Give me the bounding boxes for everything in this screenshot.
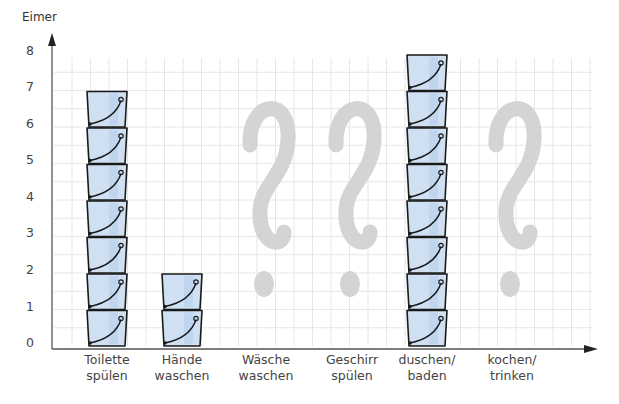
- bucket-icon: [87, 165, 127, 201]
- column-2: [250, 109, 288, 297]
- bucket-icon: [87, 238, 127, 274]
- bucket-icon: [407, 238, 447, 274]
- column-5: [496, 109, 534, 297]
- bucket-icon: [87, 92, 127, 128]
- bucket-icon: [407, 128, 447, 164]
- chart-canvas: [0, 0, 619, 404]
- x-label-duschen: duschen/ baden: [382, 352, 472, 384]
- bucket-icon: [162, 311, 202, 347]
- bucket-icon: [87, 274, 127, 310]
- bucket-icon: [162, 274, 202, 310]
- bucket-icon: [407, 165, 447, 201]
- bucket-icon: [407, 55, 447, 91]
- column-0: [87, 92, 127, 347]
- question-mark-icon: [250, 109, 288, 297]
- bucket-icon: [87, 128, 127, 164]
- bucket-icon: [87, 311, 127, 347]
- column-4: [407, 55, 447, 346]
- x-label-waesche: Wäsche waschen: [221, 352, 311, 384]
- bucket-icon: [407, 311, 447, 347]
- question-mark-icon: [496, 109, 534, 297]
- bucket-icon: [407, 92, 447, 128]
- bucket-icon: [407, 274, 447, 310]
- bucket-icon: [87, 201, 127, 237]
- column-1: [162, 274, 202, 346]
- x-label-haende: Hände waschen: [137, 352, 227, 384]
- bucket-icon: [407, 201, 447, 237]
- x-label-kochen: kochen/ trinken: [467, 352, 557, 384]
